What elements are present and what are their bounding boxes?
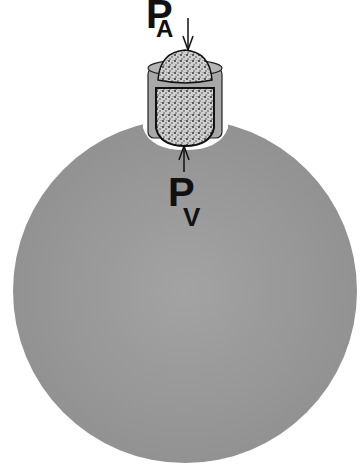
arrow-down-icon xyxy=(183,18,193,50)
label-pv-sub: V xyxy=(183,204,200,230)
stippled-dome xyxy=(158,50,212,83)
label-pa-sub: A xyxy=(156,17,173,41)
diagram-canvas xyxy=(0,0,361,466)
stippled-plug xyxy=(156,88,214,146)
